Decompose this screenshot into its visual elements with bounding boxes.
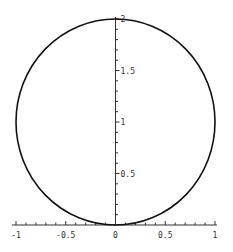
x-tick-label: 1: [213, 231, 218, 240]
x-tick-label: -1: [11, 231, 21, 240]
x-tick-label: -0.5: [56, 231, 75, 240]
y-tick-label: 2: [121, 15, 126, 24]
x-tick-label: 0: [113, 231, 118, 240]
y-tick-label: 1: [121, 118, 126, 127]
y-tick-label: 0.5: [121, 170, 136, 179]
y-tick-label: 1.5: [121, 67, 136, 76]
x-tick-label: 0.5: [158, 231, 173, 240]
chart-svg: -1-0.500.510.511.52: [0, 0, 233, 252]
tick-labels: -1-0.500.510.511.52: [11, 15, 217, 240]
